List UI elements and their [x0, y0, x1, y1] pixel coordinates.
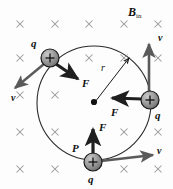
field-mark-grid: [17, 21, 162, 173]
charge-label-right: q: [155, 110, 161, 121]
field-mark-cross: [155, 55, 162, 62]
field-mark-cross: [17, 21, 24, 28]
field-mark-cross: [17, 92, 24, 99]
force-label-upper-left: F: [82, 78, 89, 89]
force-vector-upper-left-arrow: [56, 64, 78, 79]
point-label-P: P: [72, 143, 79, 154]
figure-canvas: [0, 0, 173, 189]
magnetic-field-subscript: in: [136, 12, 141, 20]
velocity-label-bottom: v: [157, 146, 161, 156]
charge-right: [141, 91, 159, 109]
field-mark-cross: [121, 55, 128, 62]
field-mark-cross: [155, 129, 162, 136]
charge-bottom-P: [84, 153, 102, 171]
charge-label-bottom: q: [88, 174, 94, 185]
field-mark-cross: [155, 166, 162, 173]
field-mark-cross: [52, 92, 59, 99]
field-mark-cross: [52, 129, 59, 136]
field-mark-cross: [52, 21, 59, 28]
field-mark-cross: [17, 166, 24, 173]
orbit-center-dot: [91, 99, 97, 105]
charge-upper-left: [41, 49, 59, 67]
force-label-right: F: [111, 107, 118, 118]
velocity-label-right: v: [158, 33, 162, 43]
field-mark-cross: [17, 129, 24, 136]
charge-label-upper-left: q: [31, 38, 37, 49]
field-mark-cross: [121, 166, 128, 173]
radius-label: r: [101, 63, 105, 73]
force-label-bottom: F: [99, 122, 106, 133]
field-mark-cross: [17, 55, 24, 62]
magnetic-field-symbol: B: [128, 5, 136, 19]
field-mark-cross: [52, 166, 59, 173]
force-vector-right-arrow: [112, 98, 142, 99]
field-mark-cross: [121, 21, 128, 28]
magnetic-force-circular-motion-figure: Bin q q q P r F v F v F v: [0, 0, 173, 189]
velocity-label-upper-left: v: [11, 93, 15, 103]
field-mark-cross: [155, 21, 162, 28]
magnetic-field-label: Bin: [128, 6, 141, 18]
field-mark-cross: [86, 21, 93, 28]
field-mark-cross: [121, 129, 128, 136]
field-mark-cross: [86, 55, 93, 62]
